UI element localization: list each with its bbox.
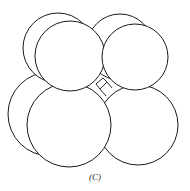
figure-caption: (C) — [0, 172, 190, 182]
sphere-front-top-left — [35, 21, 105, 91]
packed-spheres-diagram — [0, 0, 190, 191]
sphere-front-top-right — [102, 24, 168, 90]
small-interstitial-lines — [96, 78, 112, 96]
sphere-front-bottom-left — [27, 83, 111, 167]
